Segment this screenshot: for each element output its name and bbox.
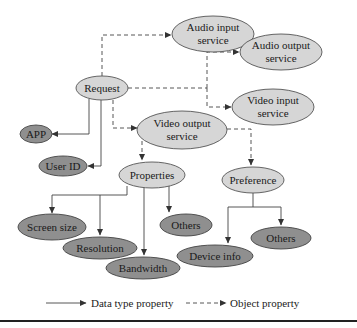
node-label: service xyxy=(166,130,197,142)
legend: Data type property Object property xyxy=(46,297,300,309)
edge-properties-screen-size xyxy=(52,186,127,213)
node-screen-size: Screen size xyxy=(18,214,86,240)
node-request: Request xyxy=(76,76,128,100)
node-others-properties: Others xyxy=(160,214,212,236)
node-label: service xyxy=(257,107,288,119)
ontology-diagram: Audio input service Request Audio output… xyxy=(0,0,357,328)
legend-object-label: Object property xyxy=(230,297,300,309)
node-bandwidth: Bandwidth xyxy=(106,257,180,279)
node-label: Bandwidth xyxy=(119,262,168,274)
edge-video-output-preference xyxy=(227,129,251,165)
node-preference: Preference xyxy=(222,167,284,193)
node-properties: Properties xyxy=(119,162,185,188)
node-label: User ID xyxy=(45,160,80,172)
edge-request-audio-input xyxy=(102,35,171,76)
node-label: Preference xyxy=(229,174,276,186)
node-label: Audio output xyxy=(252,39,310,51)
node-video-output-service: Video output service xyxy=(137,111,227,149)
node-label: service xyxy=(197,34,228,46)
node-user-id: User ID xyxy=(39,156,87,176)
node-others-preference: Others xyxy=(251,227,311,249)
node-device-info: Device info xyxy=(177,245,253,267)
edge-request-video-output xyxy=(113,100,137,128)
edge-request-user-id xyxy=(88,100,101,166)
node-label: APP xyxy=(26,128,46,140)
edge-request-app xyxy=(52,99,89,134)
node-app: APP xyxy=(20,125,52,143)
node-label: Video input xyxy=(247,94,299,106)
node-label: service xyxy=(265,52,296,64)
node-label: Device info xyxy=(189,250,241,262)
node-label: Properties xyxy=(130,169,175,181)
edge-request-video-input xyxy=(207,88,231,107)
node-label: Others xyxy=(266,232,295,244)
edge-request-audio-output xyxy=(207,52,239,88)
node-label: Resolution xyxy=(76,242,124,254)
node-label: Screen size xyxy=(27,221,77,233)
node-label: Request xyxy=(84,82,119,94)
bottom-rule xyxy=(0,320,357,322)
edge-preference-device-info xyxy=(228,193,253,243)
node-label: Others xyxy=(171,219,200,231)
legend-data-type-label: Data type property xyxy=(91,297,174,309)
node-video-input-service: Video input service xyxy=(232,89,314,125)
node-label: Audio input xyxy=(187,21,240,33)
node-audio-output-service: Audio output service xyxy=(240,34,322,70)
node-resolution: Resolution xyxy=(63,237,137,259)
node-label: Video output xyxy=(153,117,210,129)
edge-preference-others xyxy=(253,207,281,225)
